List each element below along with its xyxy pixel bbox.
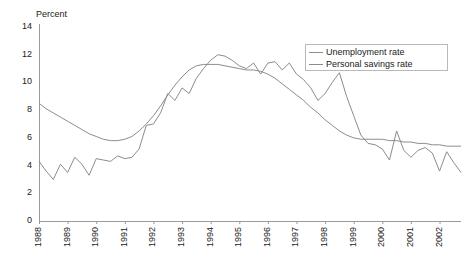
legend-label: Unemployment rate xyxy=(326,48,405,57)
data-series-group xyxy=(39,55,461,180)
legend-label: Personal savings rate xyxy=(326,60,413,69)
legend-line-swatch-icon xyxy=(309,52,323,53)
series-line-personal-savings-rate xyxy=(39,55,461,180)
plot-area xyxy=(0,0,471,266)
chart-legend: Unemployment rate Personal savings rate xyxy=(305,44,448,71)
legend-line-swatch-icon xyxy=(309,64,323,65)
legend-item-personal-savings-rate: Personal savings rate xyxy=(309,59,444,70)
chart-container: Percent 02468101214 19881989199019911992… xyxy=(0,0,471,266)
legend-item-unemployment-rate: Unemployment rate xyxy=(309,47,444,58)
